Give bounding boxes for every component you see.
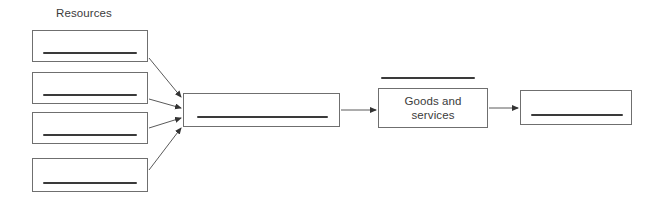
resource-box-3-answer-line[interactable] xyxy=(43,134,137,136)
diagram-canvas: Resources Goods and services xyxy=(0,0,660,202)
resource-box-1[interactable] xyxy=(32,30,148,62)
goods-top-answer-line[interactable] xyxy=(381,77,475,79)
arrow-resource-3-to-center xyxy=(149,118,181,128)
resource-box-2-answer-line[interactable] xyxy=(43,94,137,96)
arrow-resource-1-to-center xyxy=(149,58,181,97)
resources-title-label: Resources xyxy=(56,7,112,19)
arrow-resource-2-to-center xyxy=(149,99,181,108)
arrow-resource-4-to-center xyxy=(149,128,181,170)
resource-box-2[interactable] xyxy=(32,72,148,104)
resource-box-1-answer-line[interactable] xyxy=(43,52,137,54)
goods-and-services-box[interactable]: Goods and services xyxy=(378,88,488,128)
goods-and-services-label: Goods and services xyxy=(404,94,461,123)
center-process-box-answer-line[interactable] xyxy=(197,116,328,118)
resource-box-4[interactable] xyxy=(32,158,148,192)
resource-box-4-answer-line[interactable] xyxy=(43,182,137,184)
output-box[interactable] xyxy=(520,90,632,125)
center-process-box[interactable] xyxy=(183,93,340,127)
output-box-answer-line[interactable] xyxy=(531,114,623,116)
resource-box-3[interactable] xyxy=(32,112,148,144)
